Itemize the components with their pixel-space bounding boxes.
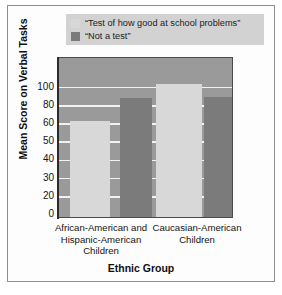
gridline-100 <box>58 87 232 89</box>
x-category-label-0: African-American andHispanic-AmericanChi… <box>49 222 153 257</box>
x-category-0-line-1: Hispanic-American <box>49 234 153 246</box>
chart-legend: “Test of how good at school problems” “N… <box>66 14 264 45</box>
legend-item-test: “Test of how good at school problems” <box>71 17 260 30</box>
x-category-1-line-1: Children <box>151 234 243 246</box>
y-tick-label-20: 20 <box>20 191 54 201</box>
x-category-label-1: Caucasian-AmericanChildren <box>151 222 243 245</box>
legend-label-not-a-test: “Not a test” <box>85 32 130 41</box>
legend-label-test: “Test of how good at school problems” <box>85 19 240 28</box>
bar-g0-s1 <box>120 98 152 217</box>
legend-swatch-test <box>71 19 80 28</box>
x-category-0-line-0: African-American and <box>49 222 153 234</box>
legend-item-not-a-test: “Not a test” <box>71 30 260 43</box>
bar-g1-s1 <box>204 97 233 217</box>
y-axis-title: Mean Score on Verbal Tasks <box>17 4 29 174</box>
plot-area <box>57 57 233 218</box>
y-axis-line <box>57 57 59 219</box>
chart-figure: “Test of how good at school problems” “N… <box>0 0 282 295</box>
legend-swatch-not-a-test <box>71 32 80 41</box>
x-axis-title: Ethnic Group <box>7 262 275 274</box>
y-tick-label-30: 30 <box>20 173 54 183</box>
x-category-0-line-2: Children <box>49 245 153 257</box>
bar-g1-s0 <box>156 84 202 217</box>
bar-g0-s0 <box>70 121 110 217</box>
x-category-1-line-0: Caucasian-American <box>151 222 243 234</box>
y-tick-label-0: 0 <box>20 209 54 219</box>
